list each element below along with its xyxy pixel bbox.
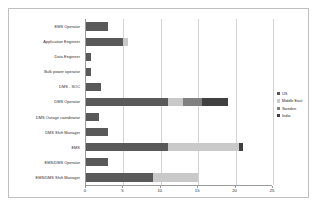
x-tick-label: 0 <box>84 188 86 193</box>
stacked-bar[interactable] <box>86 98 228 106</box>
x-tick-label: 15 <box>195 188 200 193</box>
legend-item[interactable]: Sweden <box>277 106 311 111</box>
bar-row <box>86 49 272 64</box>
category-label: Data Engineer <box>9 49 83 64</box>
category-label: EMS Operator <box>9 19 83 34</box>
chart-legend: USMiddle EastSwedenIndia <box>277 91 311 118</box>
chart-frame: EMS OperatorApplication EngineerData Eng… <box>8 8 309 198</box>
legend-label: Middle East <box>282 98 302 103</box>
bar-segment-middle-east[interactable] <box>168 143 239 151</box>
legend-swatch-icon <box>277 92 280 95</box>
category-label: Bulk power operator <box>9 65 83 80</box>
bar-segment-us[interactable] <box>86 22 108 30</box>
stacked-bar[interactable] <box>86 83 101 91</box>
bar-row <box>86 79 272 94</box>
x-axis: 0510152025 <box>85 186 272 198</box>
category-label: EMS <box>9 141 83 156</box>
x-tick-label: 10 <box>157 188 162 193</box>
stacked-bar[interactable] <box>86 22 108 30</box>
bar-segment-us[interactable] <box>86 143 168 151</box>
bar-row <box>86 94 272 109</box>
bar-segment-us[interactable] <box>86 68 91 76</box>
category-label: DMS - SOC <box>9 80 83 95</box>
bar-segment-us[interactable] <box>86 113 99 121</box>
bar-segment-india[interactable] <box>239 143 243 151</box>
bar-row <box>86 140 272 155</box>
legend-swatch-icon <box>277 107 280 110</box>
bar-segment-middle-east[interactable] <box>123 38 127 46</box>
bar-row <box>86 64 272 79</box>
bar-segment-us[interactable] <box>86 83 101 91</box>
legend-swatch-icon <box>277 114 280 117</box>
stacked-bar[interactable] <box>86 113 99 121</box>
stacked-bar[interactable] <box>86 158 108 166</box>
plot-area <box>85 19 272 186</box>
legend-label: India <box>282 113 290 118</box>
legend-item[interactable]: US <box>277 91 311 96</box>
bar-segment-us[interactable] <box>86 128 108 136</box>
x-tick-label: 20 <box>232 188 237 193</box>
legend-label: US <box>282 91 287 96</box>
x-tick-label: 5 <box>121 188 123 193</box>
x-tick-label: 25 <box>270 188 275 193</box>
stacked-bar[interactable] <box>86 173 198 181</box>
bar-row <box>86 110 272 125</box>
bar-segment-india[interactable] <box>202 98 228 106</box>
bar-segment-middle-east[interactable] <box>168 98 183 106</box>
legend-item[interactable]: Middle East <box>277 98 311 103</box>
stacked-bar[interactable] <box>86 143 243 151</box>
legend-item[interactable]: India <box>277 113 311 118</box>
bar-segment-us[interactable] <box>86 158 108 166</box>
category-label: DMS Outage coordinator <box>9 110 83 125</box>
bar-segment-us[interactable] <box>86 98 168 106</box>
horizontal-stacked-bar-chart: EMS OperatorApplication EngineerData Eng… <box>9 9 310 199</box>
gridline-25 <box>273 19 274 185</box>
bar-row <box>86 34 272 49</box>
stacked-bar[interactable] <box>86 53 91 61</box>
bar-segment-us[interactable] <box>86 173 153 181</box>
bar-row <box>86 170 272 185</box>
bar-row <box>86 19 272 34</box>
bar-segment-sweden[interactable] <box>183 98 202 106</box>
stacked-bar[interactable] <box>86 68 91 76</box>
bar-segment-middle-east[interactable] <box>153 173 198 181</box>
category-label: Application Engineer <box>9 34 83 49</box>
bar-row <box>86 125 272 140</box>
bar-row <box>86 155 272 170</box>
category-label: DMS Shift Manager <box>9 125 83 140</box>
stacked-bar[interactable] <box>86 38 128 46</box>
legend-swatch-icon <box>277 99 280 102</box>
bar-rows <box>86 19 272 185</box>
category-label: DMS Operator <box>9 95 83 110</box>
stacked-bar[interactable] <box>86 128 108 136</box>
bar-segment-us[interactable] <box>86 53 91 61</box>
category-label: EMS/DMS Shift Manager <box>9 171 83 186</box>
bar-segment-us[interactable] <box>86 38 123 46</box>
category-axis-labels: EMS OperatorApplication EngineerData Eng… <box>9 19 83 186</box>
category-label: EMS/DMS Operator <box>9 156 83 171</box>
legend-label: Sweden <box>282 106 296 111</box>
